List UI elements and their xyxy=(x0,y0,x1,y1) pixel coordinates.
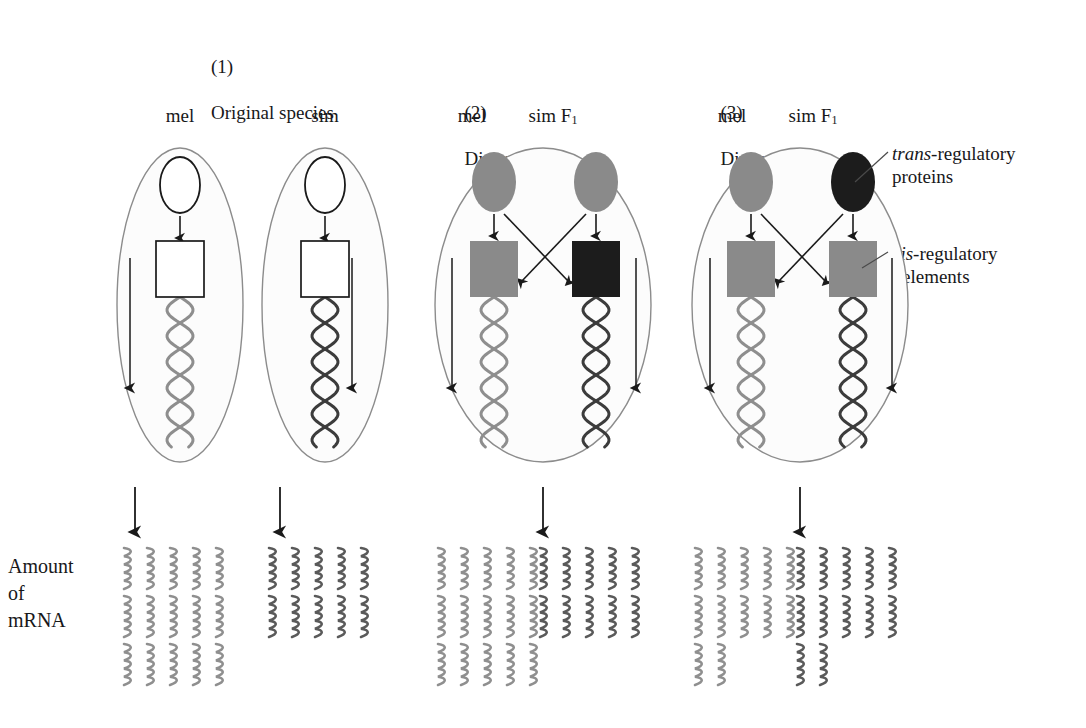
mrna-squiggle xyxy=(741,548,748,589)
mrna-squiggle xyxy=(170,644,177,685)
mrna-squiggle xyxy=(292,596,299,637)
trans-regulatory-protein-p2-sim xyxy=(574,152,618,212)
mrna-squiggle xyxy=(797,548,804,589)
mrna-squiggle xyxy=(787,596,794,637)
mrna-squiggle xyxy=(292,548,299,589)
mrna-squiggle xyxy=(216,548,223,589)
mrna-squiggle xyxy=(695,548,702,589)
mrna-squiggle xyxy=(718,644,725,685)
mrna-block-p1-mel xyxy=(124,548,223,685)
mrna-squiggle xyxy=(484,596,491,637)
mrna-squiggle xyxy=(609,596,616,637)
mrna-block-p1-sim xyxy=(269,548,368,637)
trans-regulatory-protein-p2-mel xyxy=(472,152,516,212)
mrna-squiggle xyxy=(718,596,725,637)
mrna-squiggle xyxy=(461,596,468,637)
mrna-squiggle xyxy=(438,596,445,637)
mrna-squiggle xyxy=(889,548,896,589)
mrna-squiggle xyxy=(632,548,639,589)
mrna-squiggle xyxy=(269,596,276,637)
mrna-squiggle xyxy=(586,596,593,637)
mrna-squiggle xyxy=(193,548,200,589)
mrna-squiggle xyxy=(787,548,794,589)
mrna-squiggle xyxy=(438,644,445,685)
mrna-squiggle xyxy=(563,596,570,637)
mrna-squiggle xyxy=(170,596,177,637)
cis-regulatory-element-p2-mel xyxy=(470,241,518,297)
mrna-squiggle xyxy=(484,644,491,685)
mrna-squiggle xyxy=(540,548,547,589)
cis-regulatory-element-p2-sim xyxy=(572,241,620,297)
cis-regulatory-element-p3-sim xyxy=(829,241,877,297)
mrna-squiggle xyxy=(124,596,131,637)
mrna-squiggle xyxy=(797,596,804,637)
mrna-squiggle xyxy=(507,644,514,685)
mrna-squiggle xyxy=(216,596,223,637)
mrna-squiggle xyxy=(820,596,827,637)
mrna-squiggle xyxy=(866,548,873,589)
mrna-squiggle xyxy=(530,548,537,589)
trans-regulatory-protein-p3-sim xyxy=(831,152,875,212)
mrna-squiggle xyxy=(170,548,177,589)
cell-outline-2 xyxy=(435,148,651,462)
mrna-squiggle xyxy=(609,548,616,589)
mrna-layer xyxy=(124,548,896,685)
cis-regulatory-element-p1-sim xyxy=(301,241,349,297)
mrna-squiggle xyxy=(315,548,322,589)
nucleus-oval-p1-sim xyxy=(305,157,345,213)
mrna-squiggle xyxy=(147,644,154,685)
mrna-squiggle xyxy=(718,548,725,589)
mrna-block-p2-sim xyxy=(540,548,639,637)
mrna-squiggle xyxy=(586,548,593,589)
cell-outline-3 xyxy=(692,148,908,462)
mrna-squiggle xyxy=(484,548,491,589)
mrna-squiggle xyxy=(461,644,468,685)
mrna-squiggle xyxy=(843,548,850,589)
mrna-squiggle xyxy=(147,548,154,589)
mrna-squiggle xyxy=(530,596,537,637)
mrna-squiggle xyxy=(124,644,131,685)
mrna-squiggle xyxy=(563,548,570,589)
mrna-squiggle xyxy=(216,644,223,685)
mrna-squiggle xyxy=(338,596,345,637)
mrna-squiggle xyxy=(461,548,468,589)
mrna-squiggle xyxy=(315,596,322,637)
mrna-squiggle xyxy=(820,548,827,589)
mrna-squiggle xyxy=(193,644,200,685)
mrna-squiggle xyxy=(507,548,514,589)
nucleus-oval-p1-mel xyxy=(160,157,200,213)
mrna-block-p3-sim xyxy=(797,548,896,685)
mrna-squiggle xyxy=(820,644,827,685)
mrna-squiggle xyxy=(764,548,771,589)
figure-root: (1) Original species (2) Divergence in c… xyxy=(0,0,1086,728)
mrna-squiggle xyxy=(361,548,368,589)
mrna-squiggle xyxy=(889,596,896,637)
mrna-squiggle xyxy=(843,596,850,637)
mrna-squiggle xyxy=(741,596,748,637)
mrna-squiggle xyxy=(764,596,771,637)
mrna-squiggle xyxy=(695,596,702,637)
mrna-squiggle xyxy=(866,596,873,637)
mrna-block-p2-mel xyxy=(438,548,537,685)
mrna-squiggle xyxy=(147,596,154,637)
mrna-squiggle xyxy=(695,644,702,685)
mrna-squiggle xyxy=(361,596,368,637)
mrna-squiggle xyxy=(438,548,445,589)
mrna-squiggle xyxy=(507,596,514,637)
mrna-block-p3-mel xyxy=(695,548,794,685)
mrna-squiggle xyxy=(269,548,276,589)
cis-regulatory-element-p1-mel xyxy=(156,241,204,297)
mrna-squiggle xyxy=(540,596,547,637)
trans-regulatory-protein-p3-mel xyxy=(729,152,773,212)
mrna-squiggle xyxy=(124,548,131,589)
mrna-squiggle xyxy=(530,644,537,685)
mrna-squiggle xyxy=(193,596,200,637)
mrna-squiggle xyxy=(797,644,804,685)
mrna-squiggle xyxy=(632,596,639,637)
cis-regulatory-element-p3-mel xyxy=(727,241,775,297)
mrna-squiggle xyxy=(338,548,345,589)
diagram-canvas xyxy=(0,0,1086,728)
